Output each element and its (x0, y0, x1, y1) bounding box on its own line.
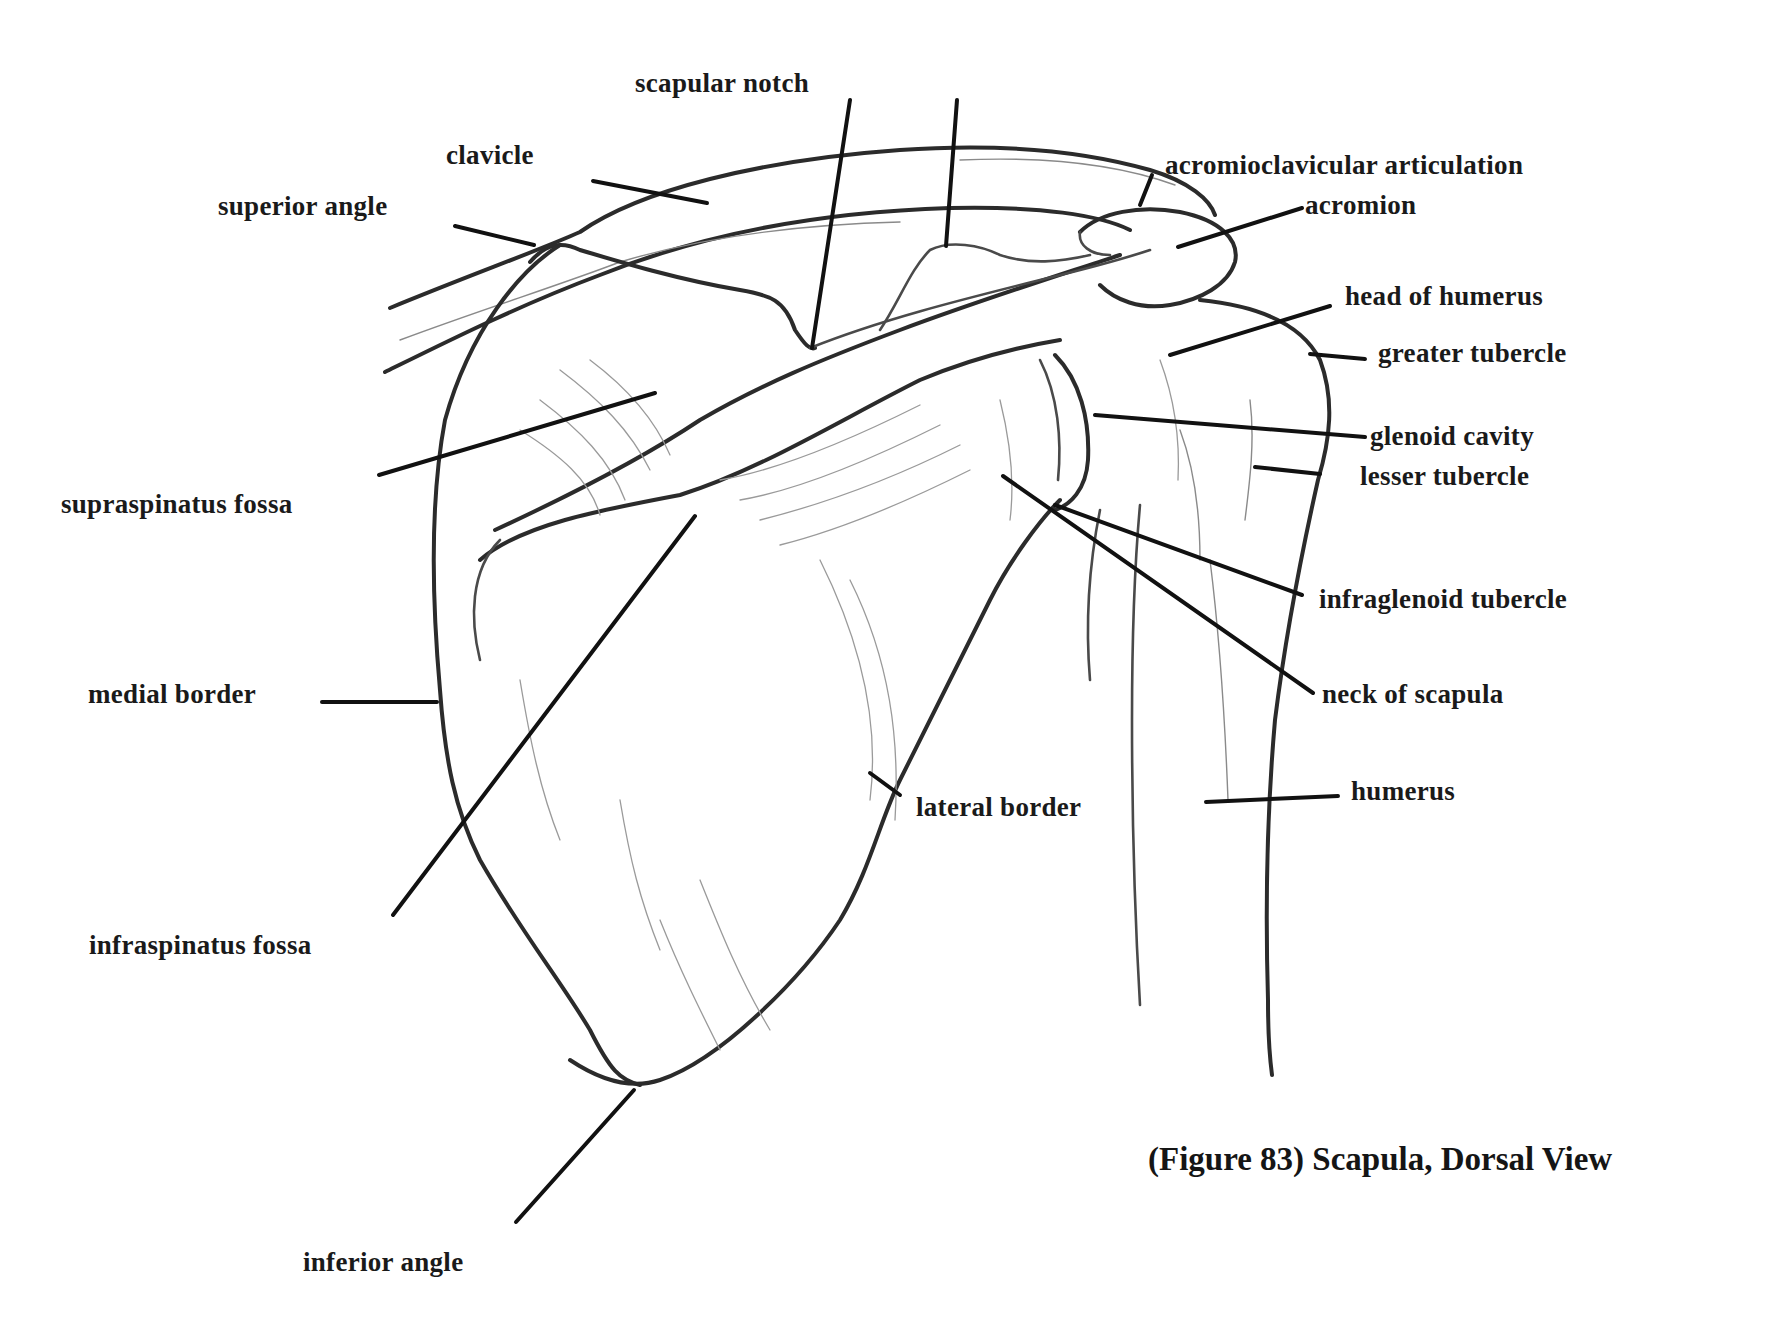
leader-superior-angle (455, 226, 534, 245)
label-supraspinatus-fossa: supraspinatus fossa (61, 491, 293, 518)
label-inferior-angle: inferior angle (303, 1249, 463, 1276)
leader-neck-of-scapula (1003, 476, 1313, 693)
label-acromion: acromion (1305, 192, 1416, 219)
leader-inferior-angle (516, 1090, 634, 1222)
scapular-spine (474, 245, 1150, 660)
label-glenoid-cavity: glenoid cavity (1370, 423, 1534, 450)
label-infraspinatus-fossa: infraspinatus fossa (89, 932, 312, 959)
leader-humerus (1206, 796, 1338, 802)
leader-coracoid (946, 100, 957, 246)
leader-glenoid-cavity (1095, 415, 1365, 437)
label-lesser-tubercle: lesser tubercle (1360, 463, 1529, 490)
leader-lines (322, 100, 1365, 1222)
leader-acromion (1178, 208, 1302, 247)
label-neck-of-scapula: neck of scapula (1322, 681, 1504, 708)
leader-infraspinatus (393, 516, 695, 915)
leader-supraspinatus (379, 393, 655, 475)
scapula-outline (434, 245, 1088, 1085)
leader-head-of-humerus (1170, 306, 1330, 355)
label-medial-border: medial border (88, 681, 256, 708)
scapula-diagram: scapular notch clavicle superior angle a… (0, 0, 1786, 1334)
label-lateral-border: lateral border (916, 794, 1081, 821)
label-acromioclavicular-articulation: acromioclavicular articulation (1165, 152, 1523, 179)
shading-hatch (520, 360, 1178, 1050)
label-greater-tubercle: greater tubercle (1378, 340, 1566, 367)
leader-acromioclavicular (1140, 175, 1152, 205)
label-head-of-humerus: head of humerus (1345, 283, 1543, 310)
leader-lesser-tubercle (1255, 467, 1320, 474)
acromion-shape (1080, 209, 1236, 306)
label-scapular-notch: scapular notch (635, 70, 809, 97)
label-humerus: humerus (1351, 778, 1455, 805)
label-superior-angle: superior angle (218, 193, 387, 220)
label-clavicle: clavicle (446, 142, 534, 169)
figure-caption: (Figure 83) Scapula, Dorsal View (1148, 1143, 1612, 1176)
label-infraglenoid-tubercle: infraglenoid tubercle (1319, 586, 1567, 613)
